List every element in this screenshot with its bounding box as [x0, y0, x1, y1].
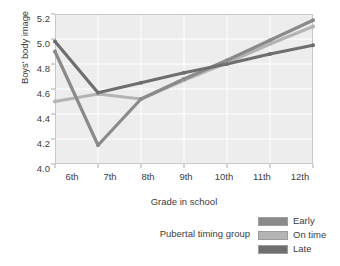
legend-item-on-time[interactable]: On time — [258, 228, 336, 242]
legend-item-early[interactable]: Early — [258, 214, 336, 228]
legend-swatch-icon — [258, 231, 288, 240]
x-tick-label: 11th — [245, 172, 279, 182]
legend-item-label: Late — [293, 244, 312, 254]
x-tick-label: 9th — [169, 172, 203, 182]
x-tick-label: 7th — [93, 172, 127, 182]
legend-item-label: On time — [293, 230, 326, 240]
x-tick-label: 10th — [207, 172, 241, 182]
x-tick-label: 6th — [55, 172, 89, 182]
x-tick-label: 12th — [283, 172, 317, 182]
legend-item-late[interactable]: Late — [258, 242, 336, 256]
legend-item-label: Early — [293, 216, 315, 226]
chart-container: Boys' body image 5.2 5.0 4.8 4.6 4.4 4.2… — [0, 0, 340, 266]
legend-swatch-icon — [258, 217, 288, 226]
x-axis-title: Grade in school — [55, 196, 313, 207]
legend-swatch-icon — [258, 245, 288, 254]
legend: Early On time Late — [258, 214, 336, 256]
legend-title: Pubertal timing group — [118, 228, 250, 239]
x-tick-label: 8th — [131, 172, 165, 182]
